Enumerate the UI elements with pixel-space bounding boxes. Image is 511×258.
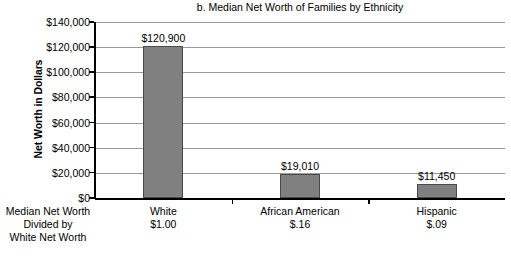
ratio-caption-line-3: White Net Worth	[0, 231, 96, 244]
y-axis-tick-label: $80,000	[4, 92, 90, 102]
x-axis-line	[95, 198, 505, 200]
bar	[280, 174, 320, 198]
y-axis-tick-label: $20,000	[4, 168, 90, 178]
y-axis-tick-label: $60,000	[4, 118, 90, 128]
y-axis-tick: $120,000	[0, 42, 90, 52]
category-ratio: $.16	[232, 218, 368, 231]
y-axis-line	[94, 22, 96, 199]
category-label: Hispanic$.09	[369, 205, 505, 231]
ratio-caption-line-2: Divided by	[0, 218, 96, 231]
y-axis-tick: $0	[0, 193, 90, 203]
y-axis-tick-mark	[89, 71, 94, 73]
y-axis-tick-mark	[89, 96, 94, 98]
category-name: Hispanic	[369, 205, 505, 218]
category-label: African American$.16	[232, 205, 368, 231]
x-axis-tick-mark	[232, 199, 234, 204]
y-axis-tick-mark	[89, 46, 94, 48]
y-axis-tick-label: $120,000	[4, 42, 90, 52]
y-axis-tick-mark	[89, 197, 94, 199]
category-ratio: $.09	[369, 218, 505, 231]
chart-title: b. Median Net Worth of Families by Ethni…	[95, 1, 505, 14]
y-axis-tick-label: $100,000	[4, 67, 90, 77]
y-axis-tick: $140,000	[0, 17, 90, 27]
y-axis-tick-label: $140,000	[4, 17, 90, 27]
bar	[417, 184, 457, 198]
ratio-caption-line-1: Median Net Worth	[0, 205, 96, 218]
bar-value-label: $120,900	[118, 32, 208, 44]
y-axis-tick: $40,000	[0, 143, 90, 153]
gridline	[95, 22, 505, 23]
y-axis-label: Net Worth in Dollars	[32, 29, 44, 189]
y-axis-tick-mark	[89, 122, 94, 124]
category-ratio: $1.00	[95, 218, 231, 231]
bar-value-label: $11,450	[392, 170, 482, 182]
y-axis-tick-label: $40,000	[4, 143, 90, 153]
category-name: African American	[232, 205, 368, 218]
bar-value-label: $19,010	[255, 160, 345, 172]
category-name: White	[95, 205, 231, 218]
ratio-caption: Median Net Worth Divided by White Net Wo…	[0, 205, 96, 244]
y-axis-tick: $20,000	[0, 168, 90, 178]
bar	[143, 46, 183, 198]
bar-chart-figure: b. Median Net Worth of Families by Ethni…	[0, 0, 511, 258]
y-axis-tick-mark	[89, 172, 94, 174]
category-label: White$1.00	[95, 205, 231, 231]
y-axis-tick: $60,000	[0, 118, 90, 128]
y-axis-tick-label: $0	[4, 193, 90, 203]
y-axis-tick-mark	[89, 21, 94, 23]
y-axis-tick: $80,000	[0, 92, 90, 102]
y-axis-tick-mark	[89, 147, 94, 149]
x-axis-tick-mark	[368, 199, 370, 204]
y-axis-tick: $100,000	[0, 67, 90, 77]
